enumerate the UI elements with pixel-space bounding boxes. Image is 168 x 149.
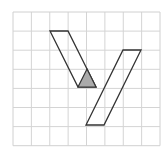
shaded-triangle [78, 69, 96, 87]
grid-diagram [0, 0, 168, 149]
shapes-layer [50, 31, 141, 125]
